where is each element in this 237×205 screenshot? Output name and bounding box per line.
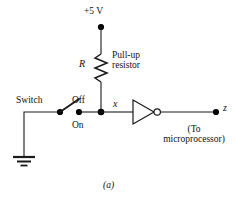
switch-label: Switch xyxy=(16,95,42,105)
node-x-label: x xyxy=(113,99,117,110)
resistor-zigzag xyxy=(95,54,107,82)
figure-caption: (a) xyxy=(103,180,114,190)
node-z-label: z xyxy=(223,103,227,114)
destination-label-line1: (To xyxy=(187,124,200,134)
wire-switch-to-ground xyxy=(24,112,60,157)
pullup-resistor-label-line2: resistor xyxy=(112,60,140,70)
pullup-resistor-label-line1: Pull-up xyxy=(112,50,140,60)
switch-on-label: On xyxy=(72,120,84,130)
node-z-terminal-dot xyxy=(213,109,219,115)
inverter-bubble-icon xyxy=(154,109,160,115)
resistor-designator-label: R xyxy=(79,59,85,70)
destination-label: (To microprocessor) xyxy=(152,124,236,145)
destination-label-line2: microprocessor) xyxy=(163,134,225,144)
supply-voltage-label: +5 V xyxy=(84,6,103,16)
inverter-triangle xyxy=(133,100,154,124)
circuit-figure: +5 V R Pull-up resistor Switch Off On x … xyxy=(0,0,237,205)
switch-off-label: Off xyxy=(72,95,85,105)
pullup-resistor-label: Pull-up resistor xyxy=(112,50,140,71)
